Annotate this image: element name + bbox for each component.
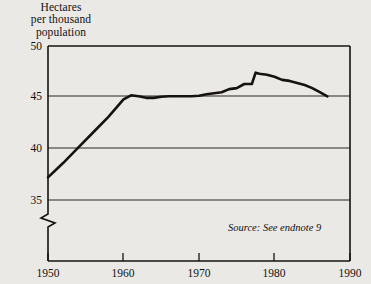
y-tick-label-35: 35 — [31, 194, 43, 206]
gridlines — [48, 96, 350, 200]
chart-figure: Hectares per thousand population — [0, 0, 371, 284]
x-tick-label-1970: 1970 — [188, 267, 211, 279]
x-tick-label-1980: 1980 — [263, 267, 286, 279]
y-tick-label-45: 45 — [31, 90, 43, 102]
y-axis-tick-labels: 50 45 40 35 — [31, 40, 43, 206]
x-tick-label-1950: 1950 — [37, 267, 60, 279]
x-axis-tick-labels: 1950 1960 1970 1980 1990 — [37, 267, 362, 279]
x-tick-label-1990: 1990 — [339, 267, 362, 279]
data-series-line — [48, 73, 327, 178]
y-tick-label-40: 40 — [31, 142, 43, 154]
source-annotation: Source: See endnote 9 — [228, 222, 321, 233]
x-tick-label-1960: 1960 — [112, 267, 135, 279]
y-tick-label-50: 50 — [31, 40, 43, 52]
line-chart-plot: 50 45 40 35 1950 1960 1970 1980 1990 — [0, 0, 371, 284]
x-axis-ticks — [48, 253, 350, 261]
